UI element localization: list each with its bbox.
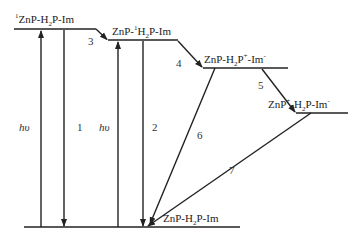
process-label-1: 1: [77, 122, 83, 133]
excitation-label-2: hυ: [99, 122, 110, 133]
energy-diagram-lines: [0, 0, 353, 239]
label-part: ZnP-: [112, 25, 134, 37]
label-part: P-Im: [196, 212, 218, 224]
state-label-s2: ZnP-1H2P-Im: [112, 26, 171, 37]
label-part: -Im: [248, 53, 264, 65]
process-label-4: 4: [176, 58, 182, 69]
label-part: P-Im: [149, 25, 171, 37]
label-part: -H: [290, 98, 302, 110]
state-label-s1: 1ZnP-H2P-Im: [15, 14, 74, 25]
state-label-ground: ZnP-H2P-Im: [163, 213, 218, 224]
label-part: ZnP: [268, 98, 286, 110]
process-label-5: 5: [258, 80, 264, 91]
state-label-s4: ZnP+-H2P-Im-: [268, 99, 330, 110]
label-part: ZnP-H: [204, 53, 234, 65]
label-part: ZnP-H: [163, 212, 193, 224]
label-part: P-Im: [52, 13, 74, 25]
label-part: P-Im: [305, 98, 327, 110]
state-label-s3: ZnP-H2P+-Im-: [204, 54, 266, 65]
process-label-2: 2: [152, 122, 158, 133]
process-label-6: 6: [197, 130, 203, 141]
excitation-label-1: hυ: [19, 122, 30, 133]
label-part: ZnP-H: [19, 13, 49, 25]
label-part: -: [327, 97, 329, 105]
label-part: -: [263, 52, 265, 60]
process-label-7: 7: [229, 165, 235, 176]
process-label-3: 3: [88, 36, 94, 47]
